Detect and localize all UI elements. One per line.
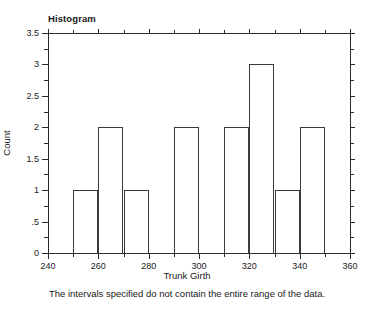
x-axis-title: Trunk Girth (0, 270, 374, 281)
x-tick-top-minor (325, 30, 326, 33)
y-tick-minor (44, 143, 48, 144)
histogram-bar (275, 190, 300, 253)
y-tick-right (350, 253, 355, 254)
y-tick-right (350, 127, 355, 128)
x-tick-top-minor (174, 30, 175, 33)
y-tick-right-minor (350, 206, 354, 207)
x-tick-top (98, 29, 99, 33)
y-tick-major (42, 253, 48, 254)
y-tick-label: .5 (31, 217, 39, 227)
x-tick-major (249, 253, 250, 259)
y-tick-right (350, 190, 355, 191)
chart-footnote: The intervals specified do not contain t… (0, 288, 374, 299)
y-tick-right-minor (350, 174, 354, 175)
x-tick-top-minor (224, 30, 225, 33)
y-tick-major (42, 127, 48, 128)
y-tick-right (350, 33, 355, 34)
y-tick-label: 1.5 (26, 154, 39, 164)
y-tick-label: 2 (34, 122, 39, 132)
y-tick-right (350, 222, 355, 223)
y-tick-right (350, 96, 355, 97)
y-tick-right-minor (350, 112, 354, 113)
x-tick-top-minor (124, 30, 125, 33)
histogram-bar (98, 127, 123, 253)
y-tick-right-minor (350, 143, 354, 144)
y-tick-right (350, 64, 355, 65)
y-tick-major (42, 159, 48, 160)
histogram-figure: Histogram 240260280300320340360 0.511.52… (0, 0, 374, 314)
y-tick-minor (44, 80, 48, 81)
x-tick-major (48, 253, 49, 259)
x-tick-top (199, 29, 200, 33)
y-tick-right (350, 159, 355, 160)
x-tick-minor (275, 253, 276, 257)
y-tick-major (42, 33, 48, 34)
x-tick-minor (224, 253, 225, 257)
chart-title: Histogram (48, 13, 96, 24)
y-tick-minor (44, 112, 48, 113)
x-tick-top (249, 29, 250, 33)
plot-area: 240260280300320340360 0.511.522.533.5 (48, 33, 350, 253)
x-tick-top-minor (275, 30, 276, 33)
x-tick-minor (73, 253, 74, 257)
histogram-bar (249, 64, 274, 253)
y-tick-minor (44, 174, 48, 175)
x-tick-top (300, 29, 301, 33)
y-tick-label: 2.5 (26, 91, 39, 101)
x-tick-minor (124, 253, 125, 257)
y-axis-line (48, 33, 49, 254)
histogram-bar (124, 190, 149, 253)
y-tick-minor (44, 237, 48, 238)
y-axis-title: Count (1, 130, 12, 155)
y-tick-label: 3 (34, 59, 39, 69)
y-tick-minor (44, 206, 48, 207)
x-tick-major (98, 253, 99, 259)
x-tick-major (199, 253, 200, 259)
x-tick-top-minor (73, 30, 74, 33)
y-tick-right-minor (350, 80, 354, 81)
x-tick-major (149, 253, 150, 259)
y-tick-right-minor (350, 237, 354, 238)
y-tick-major (42, 64, 48, 65)
histogram-bar (300, 127, 325, 253)
y-tick-label: 0 (34, 248, 39, 258)
top-frame-line (48, 33, 351, 34)
x-tick-top (48, 29, 49, 33)
y-tick-major (42, 222, 48, 223)
y-tick-minor (44, 49, 48, 50)
histogram-bar (73, 190, 98, 253)
histogram-bar (224, 127, 249, 253)
y-tick-major (42, 190, 48, 191)
x-tick-major (300, 253, 301, 259)
x-tick-top (149, 29, 150, 33)
y-tick-label: 1 (34, 185, 39, 195)
x-tick-minor (325, 253, 326, 257)
y-tick-right-minor (350, 49, 354, 50)
histogram-bar (174, 127, 199, 253)
y-tick-major (42, 96, 48, 97)
y-tick-label: 3.5 (26, 28, 39, 38)
x-tick-minor (174, 253, 175, 257)
